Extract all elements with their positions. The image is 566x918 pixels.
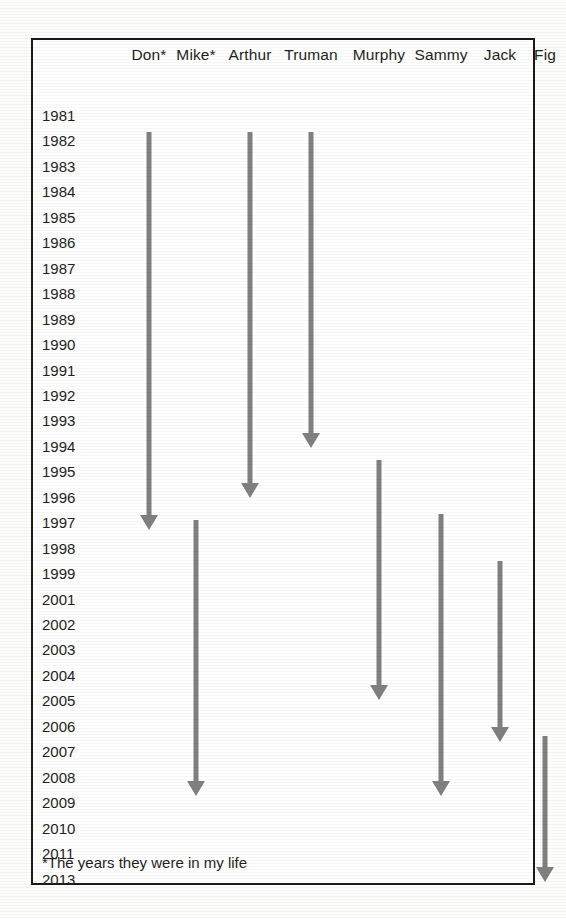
year-label-2010: 2010 (39, 821, 101, 836)
timeline-arrow-mike (186, 520, 206, 796)
timeline-plot-area (33, 40, 533, 883)
column-header-row: Don*Mike*ArthurTrumanMurphySammyJackFig (33, 40, 533, 70)
year-label-1985: 1985 (39, 210, 101, 225)
column-header-don: Don* (132, 46, 167, 64)
year-label-2005: 2005 (39, 693, 101, 708)
year-label-1986: 1986 (39, 235, 101, 250)
chart-frame: Don*Mike*ArthurTrumanMurphySammyJackFig … (31, 38, 535, 885)
year-label-1989: 1989 (39, 312, 101, 327)
timeline-arrow-arthur (240, 132, 260, 498)
year-label-2007: 2007 (39, 744, 101, 759)
arrow-shaft (248, 132, 253, 483)
year-label-1987: 1987 (39, 261, 101, 276)
timeline-arrow-truman (301, 132, 321, 448)
arrow-down-icon (187, 781, 205, 796)
arrow-down-icon (491, 727, 509, 742)
year-label-1993: 1993 (39, 413, 101, 428)
year-label-2008: 2008 (39, 770, 101, 785)
timeline-arrow-murphy (369, 460, 389, 700)
year-label-1992: 1992 (39, 388, 101, 403)
arrow-shaft (309, 132, 314, 433)
arrow-down-icon (140, 515, 158, 530)
column-header-jack: Jack (484, 46, 516, 64)
timeline-arrow-jack (490, 561, 510, 742)
timeline-arrow-don (139, 132, 159, 530)
arrow-shaft (439, 514, 444, 781)
timeline-arrow-fig (535, 736, 555, 882)
year-label-2002: 2002 (39, 617, 101, 632)
arrow-shaft (543, 736, 548, 867)
column-header-murphy: Murphy (353, 46, 405, 64)
arrow-down-icon (370, 685, 388, 700)
year-label-2001: 2001 (39, 592, 101, 607)
year-label-1981: 1981 (39, 108, 101, 123)
year-label-1984: 1984 (39, 184, 101, 199)
year-label-1991: 1991 (39, 363, 101, 378)
arrow-down-icon (302, 433, 320, 448)
scanned-page-background: Don*Mike*ArthurTrumanMurphySammyJackFig … (0, 0, 566, 918)
arrow-down-icon (432, 781, 450, 796)
arrow-shaft (377, 460, 382, 685)
year-label-1995: 1995 (39, 464, 101, 479)
arrow-shaft (194, 520, 199, 781)
year-label-1994: 1994 (39, 439, 101, 454)
year-label-1997: 1997 (39, 515, 101, 530)
year-label-2003: 2003 (39, 642, 101, 657)
year-label-1983: 1983 (39, 159, 101, 174)
column-header-truman: Truman (284, 46, 337, 64)
year-label-2009: 2009 (39, 795, 101, 810)
year-label-1988: 1988 (39, 286, 101, 301)
arrow-down-icon (536, 867, 554, 882)
year-label-1999: 1999 (39, 566, 101, 581)
year-label-1990: 1990 (39, 337, 101, 352)
column-header-mike: Mike* (176, 46, 215, 64)
column-header-fig: Fig (534, 46, 556, 64)
year-label-1998: 1998 (39, 541, 101, 556)
column-header-arthur: Arthur (229, 46, 272, 64)
arrow-shaft (498, 561, 503, 727)
year-label-1996: 1996 (39, 490, 101, 505)
year-label-2013: 2013 (39, 872, 101, 887)
timeline-arrow-sammy (431, 514, 451, 796)
column-header-sammy: Sammy (414, 46, 467, 64)
year-label-1982: 1982 (39, 133, 101, 148)
arrow-shaft (147, 132, 152, 515)
footnote-text: *The years they were in my life (42, 854, 247, 871)
year-label-2006: 2006 (39, 719, 101, 734)
arrow-down-icon (241, 483, 259, 498)
year-label-2004: 2004 (39, 668, 101, 683)
